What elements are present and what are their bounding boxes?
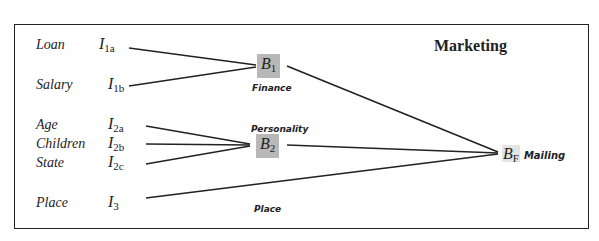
caption-mailing: Mailing [524,150,565,161]
indicator-i2c: I2c [108,153,124,172]
edge-b2-bf [287,145,498,153]
edge-i2a-b2 [146,126,250,144]
edge-i1a-b1 [129,48,256,65]
edge-i2c-b2 [146,146,250,164]
indicator-i2b: I2b [108,134,124,153]
input-label-children: Children [36,136,85,152]
indicator-i1a: I1a [99,35,115,54]
node-b1: B1 [257,54,280,78]
edge-i3-bf [146,154,498,198]
caption-personality: Personality [251,124,308,134]
edge-b1-bf [287,66,498,152]
node-bf: BF Mailing [502,145,565,164]
input-label-salary: Salary [36,77,73,93]
input-label-loan: Loan [36,37,65,53]
caption-finance: Finance [252,83,292,93]
input-label-place: Place [36,195,68,211]
edge-i2b-b2 [146,144,250,145]
edge-i1b-b1 [129,67,256,86]
input-label-state: State [36,155,64,171]
input-label-age: Age [36,117,58,133]
indicator-i2a: I2a [108,115,124,134]
indicator-i3: I3 [108,193,119,212]
diagram-title: Marketing [434,37,507,55]
node-b2: B2 [256,134,279,158]
edges [0,0,599,241]
indicator-i1b: I1b [108,75,124,94]
caption-place: Place [254,204,281,214]
